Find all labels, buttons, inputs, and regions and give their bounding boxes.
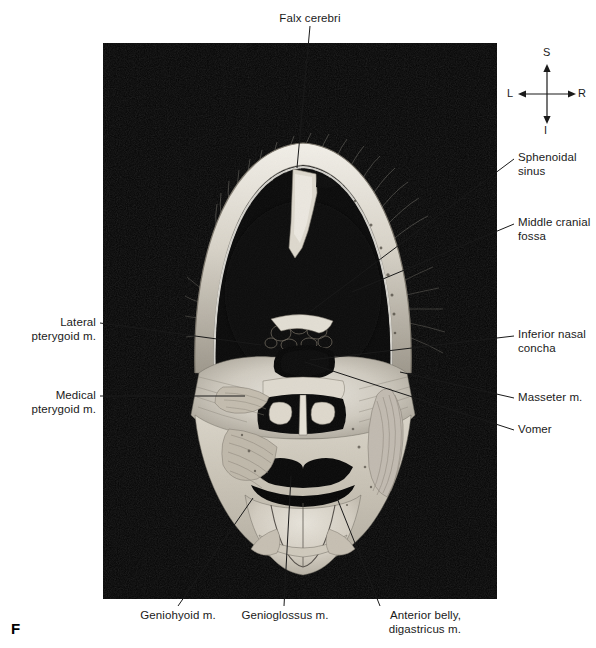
label-vomer: Vomer	[518, 423, 596, 437]
compass-label-inferior: I	[544, 124, 547, 136]
coronal-section-photograph	[103, 43, 497, 599]
label-inferior-nasal-concha: Inferior nasal concha	[518, 328, 596, 355]
compass-label-right: R	[578, 87, 586, 99]
compass-label-left: L	[507, 87, 513, 99]
label-anterior-belly-digastricus-m: Anterior belly, digastricus m.	[341, 609, 461, 636]
label-medical-pterygoid-m: Medical pterygoid m.	[0, 389, 96, 416]
label-lateral-pterygoid-m: Lateral pterygoid m.	[0, 316, 96, 343]
coronal-section-image	[103, 43, 497, 599]
figure-panel-letter: F	[11, 620, 20, 637]
orientation-compass: S I L R	[508, 50, 586, 138]
label-falx-cerebri: Falx cerebri	[250, 12, 370, 26]
label-geniohyoid-m: Geniohyoid m.	[128, 609, 228, 623]
anatomy-figure: Falx cerebri Sphenoidal sinus Middle cra…	[0, 0, 596, 648]
label-masseter-m: Masseter m.	[518, 391, 596, 405]
label-middle-cranial-fossa: Middle cranial fossa	[518, 216, 596, 243]
label-genioglossus-m: Genioglossus m.	[230, 609, 340, 623]
label-sphenoidal-sinus: Sphenoidal sinus	[518, 151, 596, 178]
compass-label-superior: S	[543, 46, 550, 58]
